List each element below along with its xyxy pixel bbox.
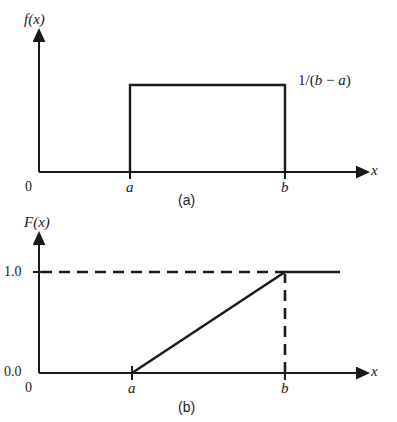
figure-root: f(x) x 0 a b 1/(b − a) (a) F(x) x 1.0 0.… — [0, 0, 397, 422]
annotation-prefix: 1/( — [298, 72, 315, 88]
panel-b-y-tick-label-0: 0.0 — [4, 365, 22, 379]
panel-a-pdf-curve — [130, 85, 285, 172]
figure-svg — [0, 0, 397, 422]
annotation-suffix: ) — [346, 72, 351, 88]
panel-b-caption: (b) — [178, 400, 195, 414]
panel-a-plot — [39, 40, 358, 179]
panel-b-cdf-curve — [132, 272, 340, 373]
panel-a-x-axis-label: x — [371, 163, 378, 178]
panel-a-origin-label: 0 — [25, 180, 32, 194]
panel-a-caption: (a) — [178, 193, 195, 207]
panel-b-origin-label: 0 — [25, 381, 32, 395]
panel-b-y-tick-label-1: 1.0 — [4, 265, 22, 279]
panel-b-tick-label-b: b — [281, 381, 289, 396]
panel-b-y-axis-label: F(x) — [24, 215, 50, 230]
panel-b-x-axis-label: x — [371, 364, 378, 379]
panel-b-tick-label-a: a — [128, 381, 136, 396]
panel-a-tick-label-a: a — [126, 180, 134, 195]
annotation-operator: − — [322, 72, 338, 88]
panel-b-plot — [33, 243, 358, 380]
panel-a-tick-label-b: b — [281, 180, 289, 195]
panel-a-y-axis-label: f(x) — [24, 12, 45, 27]
panel-a-height-annotation: 1/(b − a) — [298, 73, 351, 88]
annotation-var-a: a — [338, 72, 346, 88]
